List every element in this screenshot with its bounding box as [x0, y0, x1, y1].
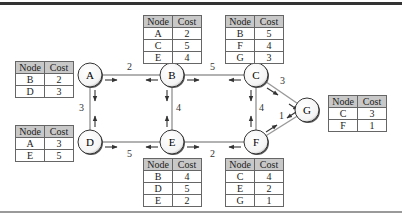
routing-table-B: NodeCost A2 C5 E4 — [143, 15, 202, 64]
table-row: E4 — [144, 52, 202, 64]
table-row: B4 — [144, 171, 202, 183]
table-row: A3 — [16, 138, 74, 150]
table-row: D5 — [144, 183, 202, 195]
table-row: F1 — [329, 120, 387, 132]
svg-text:A: A — [86, 69, 94, 81]
header-cost: Cost — [255, 159, 284, 171]
cost-label-B-E: 4 — [176, 102, 181, 113]
cost-label-C-F: 4 — [259, 102, 264, 113]
routing-table-C: NodeCost B5 F4 G3 — [225, 15, 284, 64]
node-C: C — [244, 63, 269, 88]
svg-text:E: E — [169, 136, 176, 148]
node-G: G — [295, 98, 320, 123]
node-A: A — [78, 63, 103, 88]
table-row: A2 — [144, 28, 202, 40]
cost-label-F-G: 1 — [279, 110, 284, 121]
svg-text:D: D — [86, 136, 94, 148]
cost-label-D-E: 5 — [127, 148, 132, 159]
header-node: Node — [226, 159, 255, 171]
svg-text:B: B — [168, 69, 175, 81]
header-node: Node — [16, 62, 45, 74]
table-row: B2 — [16, 74, 74, 86]
header-cost: Cost — [45, 62, 74, 74]
node-B: B — [160, 63, 185, 88]
routing-table-G: NodeCost C3 F1 — [328, 95, 387, 132]
cost-label-E-F: 2 — [210, 148, 215, 159]
table-row: G3 — [226, 52, 284, 64]
header-node: Node — [329, 96, 358, 108]
cost-label-C-G: 3 — [280, 75, 285, 86]
table-row: C4 — [226, 171, 284, 183]
table-row: G1 — [226, 195, 284, 207]
cost-label-A-D: 3 — [79, 102, 84, 113]
arrow-icons — [95, 80, 298, 147]
routing-table-F: NodeCost C4 E2 G1 — [225, 158, 284, 207]
table-row: E5 — [16, 150, 74, 162]
header-cost: Cost — [173, 159, 202, 171]
table-row: E2 — [226, 183, 284, 195]
svg-text:F: F — [253, 136, 259, 148]
header-cost: Cost — [45, 126, 74, 138]
header-cost: Cost — [173, 16, 202, 28]
routing-table-E: NodeCost B4 D5 E2 — [143, 158, 202, 207]
table-row: F4 — [226, 40, 284, 52]
table-row: B5 — [226, 28, 284, 40]
node-D: D — [78, 130, 103, 155]
svg-text:C: C — [252, 69, 259, 81]
header-node: Node — [16, 126, 45, 138]
node-E: E — [160, 130, 185, 155]
header-node: Node — [226, 16, 255, 28]
header-node: Node — [144, 16, 173, 28]
table-row: C5 — [144, 40, 202, 52]
header-cost: Cost — [255, 16, 284, 28]
header-node: Node — [144, 159, 173, 171]
table-row: C3 — [329, 108, 387, 120]
table-row: E2 — [144, 195, 202, 207]
cost-label-A-B: 2 — [127, 61, 132, 72]
routing-table-A: NodeCost B2 D3 — [15, 61, 74, 98]
svg-text:G: G — [303, 104, 311, 116]
routing-table-D: NodeCost A3 E5 — [15, 125, 74, 162]
header-cost: Cost — [358, 96, 387, 108]
table-row: D3 — [16, 86, 74, 98]
arrow-diag-icon — [266, 125, 277, 132]
cost-label-B-C: 5 — [210, 61, 215, 72]
edges — [90, 75, 307, 142]
node-F: F — [244, 130, 269, 155]
